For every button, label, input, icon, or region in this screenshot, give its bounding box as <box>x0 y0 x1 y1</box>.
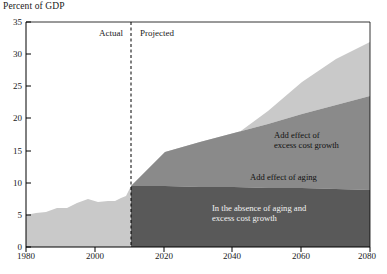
x-tick-label-1980: 1980 <box>4 252 48 261</box>
x-tick-label-2020: 2020 <box>142 252 186 261</box>
x-tick-label-2000: 2000 <box>73 252 117 261</box>
aging-label: Add effect of aging <box>250 172 317 182</box>
absence-label-line1: In the absence of aging and <box>212 203 306 213</box>
chart-container: Percent of GDP <box>0 0 387 274</box>
excess-cost-growth-label-line1: Add effect of <box>274 130 339 140</box>
y-tick-label-25: 25 <box>0 82 22 91</box>
projected-label: Projected <box>140 29 174 38</box>
actual-label: Actual <box>99 29 123 38</box>
excess-cost-growth-label: Add effect of excess cost growth <box>274 130 339 151</box>
y-tick-label-20: 20 <box>0 114 22 123</box>
excess-cost-growth-label-line2: excess cost growth <box>274 140 339 150</box>
y-tick-label-30: 30 <box>0 50 22 59</box>
x-tick-label-2060: 2060 <box>279 252 323 261</box>
x-tick-label-2080: 2080 <box>345 252 387 261</box>
y-tick-label-15: 15 <box>0 147 22 156</box>
absence-label: In the absence of aging and excess cost … <box>212 203 306 224</box>
absence-label-line2: excess cost growth <box>212 213 306 223</box>
y-tick-label-35: 35 <box>0 18 22 27</box>
y-tick-label-5: 5 <box>0 211 22 220</box>
x-tick-label-2040: 2040 <box>210 252 254 261</box>
y-tick-marks <box>26 22 31 247</box>
y-tick-label-10: 10 <box>0 179 22 188</box>
area-historical-actual <box>26 186 131 247</box>
